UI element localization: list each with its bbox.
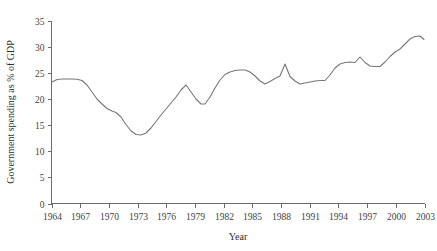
x-tick-label: 2000 [387, 212, 406, 222]
y-axis-tick-labels: 05101520253035 [35, 17, 45, 210]
y-tick-label: 5 [40, 173, 45, 183]
x-axis-ticks [53, 204, 426, 208]
x-tick-label: 1988 [272, 212, 291, 222]
y-tick-label: 0 [40, 200, 45, 210]
y-tick-label: 15 [35, 121, 45, 131]
x-tick-label: 2003 [416, 212, 435, 222]
x-tick-label: 1979 [186, 212, 205, 222]
y-tick-label: 35 [35, 17, 45, 27]
y-tick-label: 20 [35, 95, 45, 105]
x-tick-label: 1994 [329, 212, 348, 222]
y-tick-label: 10 [35, 147, 45, 157]
x-tick-label: 1982 [215, 212, 234, 222]
y-tick-label: 25 [35, 69, 45, 79]
x-tick-label: 1976 [157, 212, 176, 222]
x-axis-tick-labels: 1964196719701973197619791982198519881991… [43, 212, 435, 222]
chart-figure: 05101520253035 1964196719701973197619791… [0, 0, 437, 251]
x-tick-label: 1964 [43, 212, 62, 222]
x-tick-label: 1997 [358, 212, 377, 222]
y-tick-label: 30 [35, 43, 45, 53]
x-tick-label: 1967 [71, 212, 90, 222]
line-chart: 05101520253035 1964196719701973197619791… [0, 0, 437, 251]
x-tick-label: 1970 [100, 212, 119, 222]
x-tick-label: 1991 [301, 212, 320, 222]
x-tick-label: 1973 [129, 212, 148, 222]
x-tick-label: 1985 [243, 212, 262, 222]
y-axis-title: Government spending as % of GDP [5, 40, 16, 184]
data-series-line [52, 36, 424, 135]
x-axis-title: Year [229, 231, 248, 242]
y-axis-ticks [48, 22, 52, 205]
